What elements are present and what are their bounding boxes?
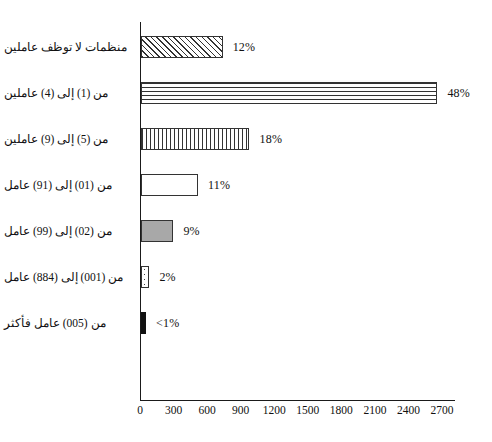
bar-and-value: 18% — [141, 116, 282, 162]
bar-value-label: 9% — [183, 224, 199, 239]
bar-row: من (20) إلى (99) عامل9% — [0, 208, 492, 254]
bar-category-label: منظمات لا توظف عاملين — [4, 24, 134, 70]
bar — [141, 128, 249, 150]
bar-value-label: <1% — [156, 316, 179, 331]
bar-value-label: 18% — [259, 132, 282, 147]
bar-value-label: 2% — [159, 270, 175, 285]
x-axis-tick-label: 300 — [165, 404, 182, 416]
bar — [141, 174, 198, 196]
bar-and-value: 48% — [141, 70, 470, 116]
bar-and-value: <1% — [141, 300, 179, 346]
bar-row: من (500) عامل فأكثر<1% — [0, 300, 492, 346]
bar-and-value: 2% — [141, 254, 176, 300]
bar-and-value: 11% — [141, 162, 230, 208]
bar-row: منظمات لا توظف عاملين12% — [0, 24, 492, 70]
bar-value-label: 12% — [233, 40, 256, 55]
x-axis-tick-label: 2100 — [363, 404, 386, 416]
bar-and-value: 12% — [141, 24, 255, 70]
bar — [141, 36, 223, 58]
bar-row: من (1) إلى (4) عاملين48% — [0, 70, 492, 116]
bar-row: من (5) إلى (9) عاملين18% — [0, 116, 492, 162]
bar-category-label: من (20) إلى (99) عامل — [4, 208, 134, 254]
x-axis-tick-label: 1800 — [330, 404, 353, 416]
x-axis-tick-label: 1200 — [263, 404, 286, 416]
bar — [141, 220, 173, 242]
bar-category-label: من (1) إلى (4) عاملين — [4, 70, 134, 116]
bar-row: من (100) إلى (488) عامل2% — [0, 254, 492, 300]
bar-row: من (10) إلى (19) عامل11% — [0, 162, 492, 208]
x-axis-tick-label: 1500 — [296, 404, 319, 416]
x-axis-tick-label: 900 — [232, 404, 249, 416]
bar-chart: منظمات لا توظف عاملين12%من (1) إلى (4) ع… — [0, 0, 492, 442]
bar — [141, 82, 437, 104]
bar-value-label: 48% — [447, 86, 470, 101]
x-axis-tick-label: 600 — [198, 404, 215, 416]
bar-category-label: من (5) إلى (9) عاملين — [4, 116, 134, 162]
bar — [141, 312, 146, 334]
x-axis-tick-label: 2400 — [397, 404, 420, 416]
bar-and-value: 9% — [141, 208, 200, 254]
bar-category-label: من (10) إلى (19) عامل — [4, 162, 134, 208]
bar-category-label: من (100) إلى (488) عامل — [4, 254, 134, 300]
x-axis-tick-label: 0 — [137, 404, 143, 416]
bar-value-label: 11% — [208, 178, 230, 193]
x-axis-line — [140, 400, 455, 401]
bar — [141, 266, 149, 288]
x-axis-tick-labels: 0300600900120015001800210024002700 — [0, 404, 492, 424]
bar-category-label: من (500) عامل فأكثر — [4, 300, 134, 346]
x-axis-tick-label: 2700 — [431, 404, 454, 416]
